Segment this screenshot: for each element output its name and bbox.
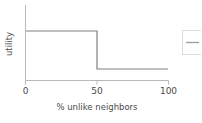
step-chart-svg: 0 50 100 % unlike neighbors utility <box>0 0 201 123</box>
y-axis-title: utility <box>4 32 14 56</box>
x-tick-label-50: 50 <box>91 86 103 96</box>
x-tick-label-0: 0 <box>23 86 29 96</box>
chart-figure: 0 50 100 % unlike neighbors utility <box>0 0 201 123</box>
legend-box[interactable] <box>183 31 202 55</box>
x-axis-title: % unlike neighbors <box>56 102 138 112</box>
x-tick-label-100: 100 <box>160 86 177 96</box>
